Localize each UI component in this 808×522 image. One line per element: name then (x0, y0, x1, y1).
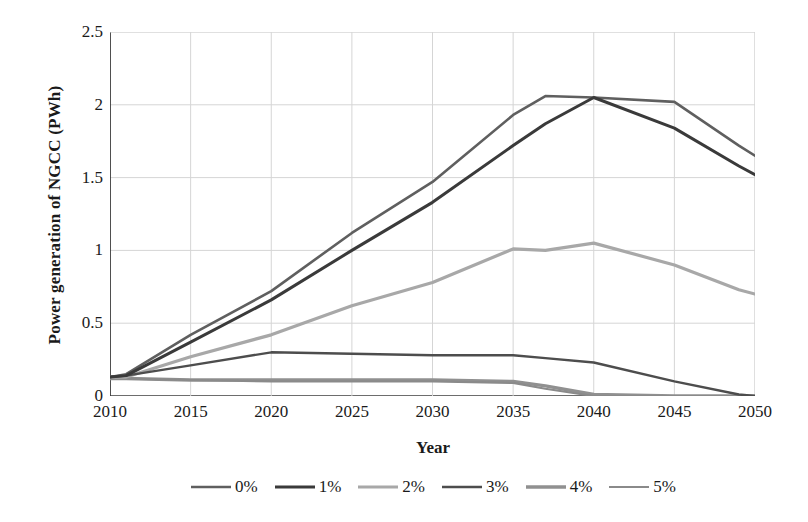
legend-swatch (274, 481, 316, 493)
x-tick-label: 2015 (174, 402, 208, 422)
legend-swatch (357, 481, 399, 493)
legend-label: 3% (486, 478, 509, 495)
legend-swatch (441, 481, 483, 493)
x-tick-label: 2030 (416, 402, 450, 422)
chart-figure: Power generation of NGCC (PWh) 00.511.52… (0, 0, 808, 522)
x-tick-label: 2025 (335, 402, 369, 422)
x-tick-label: 2020 (254, 402, 288, 422)
legend-item[interactable]: 5% (608, 478, 676, 495)
chart-legend: 0%1%2%3%4%5% (110, 478, 756, 495)
legend-item[interactable]: 4% (525, 478, 593, 495)
y-axis-title: Power generation of NGCC (PWh) (45, 15, 65, 415)
legend-label: 1% (319, 478, 342, 495)
legend-label: 0% (235, 478, 258, 495)
y-tick-label: 1 (95, 240, 104, 260)
y-tick-label: 2 (95, 95, 104, 115)
y-tick-label: 0.5 (82, 313, 103, 333)
legend-swatch (608, 481, 650, 493)
x-tick-label: 2040 (577, 402, 611, 422)
legend-item[interactable]: 0% (190, 478, 258, 495)
y-tick-label: 2.5 (82, 22, 103, 42)
y-tick-label: 1.5 (82, 168, 103, 188)
legend-swatch (190, 481, 232, 493)
legend-swatch (525, 481, 567, 493)
plot-area: 00.511.522.5 201020152020202520302035204… (110, 32, 755, 396)
x-axis-title: Year (110, 438, 756, 458)
legend-label: 2% (402, 478, 425, 495)
x-tick-label: 2050 (738, 402, 772, 422)
legend-item[interactable]: 3% (441, 478, 509, 495)
x-tick-label: 2010 (93, 402, 127, 422)
legend-item[interactable]: 1% (274, 478, 342, 495)
x-tick-label: 2045 (657, 402, 691, 422)
legend-item[interactable]: 2% (357, 478, 425, 495)
legend-label: 5% (653, 478, 676, 495)
plot-canvas (110, 32, 755, 396)
legend-label: 4% (570, 478, 593, 495)
x-tick-label: 2035 (496, 402, 530, 422)
